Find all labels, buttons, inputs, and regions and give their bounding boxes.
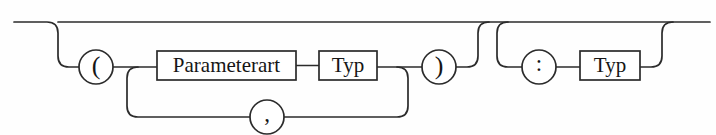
rail-closeparen-riser bbox=[456, 22, 489, 67]
node-open-paren: ( bbox=[79, 50, 113, 84]
colon-label: : bbox=[536, 51, 542, 76]
node-comma: , bbox=[250, 100, 284, 134]
open-paren-label: ( bbox=[92, 51, 101, 80]
parameterart-label: Parameterart bbox=[173, 53, 280, 77]
node-typ-return: Typ bbox=[580, 51, 640, 80]
node-close-paren: ) bbox=[422, 50, 456, 84]
typ-return-label: Typ bbox=[594, 53, 626, 77]
node-typ-parameter: Typ bbox=[319, 51, 377, 80]
node-parameterart: Parameterart bbox=[157, 51, 296, 80]
close-paren-label: ) bbox=[435, 51, 444, 80]
railroad-diagram: ( Parameterart Typ ) , : T bbox=[0, 0, 716, 135]
node-colon: : bbox=[522, 50, 556, 84]
syntax-diagram-canvas: ( Parameterart Typ ) , : T bbox=[0, 0, 716, 135]
typ-parameter-label: Typ bbox=[332, 53, 364, 77]
rail-colon-descender bbox=[497, 22, 522, 67]
rail-entry-segment bbox=[14, 22, 79, 67]
comma-label: , bbox=[264, 101, 270, 126]
rail-typ-return-riser bbox=[640, 22, 673, 67]
